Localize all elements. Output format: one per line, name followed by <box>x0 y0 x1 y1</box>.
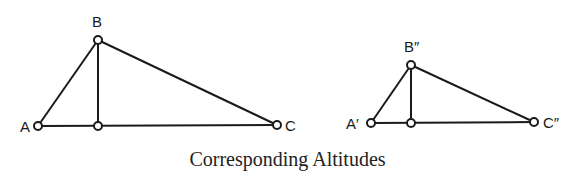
vertex-a-prime-point <box>367 119 375 127</box>
vertex-b-prime-point <box>407 61 415 69</box>
label-a: A <box>20 118 30 135</box>
side-bc <box>98 40 277 125</box>
label-c-prime: C″ <box>543 114 560 131</box>
altitude-foot-prime-point <box>407 119 415 127</box>
side-ac <box>38 125 277 126</box>
vertex-b-point <box>94 36 102 44</box>
side-ac-prime <box>371 122 534 123</box>
altitude-foot-point <box>94 122 102 130</box>
label-b: B <box>92 13 102 30</box>
label-a-prime: A′ <box>346 115 359 132</box>
figure-caption: Corresponding Altitudes <box>0 148 575 171</box>
label-b-prime: B″ <box>404 38 420 55</box>
label-c: C <box>285 117 296 134</box>
side-ab <box>38 40 98 126</box>
vertex-a-point <box>34 122 42 130</box>
triangle-a-prime-b-c <box>367 61 538 127</box>
triangle-abc <box>34 36 281 130</box>
side-bc-prime <box>411 65 534 122</box>
vertex-c-prime-point <box>530 118 538 126</box>
vertex-c-point <box>273 121 281 129</box>
side-ab-prime <box>371 65 411 123</box>
